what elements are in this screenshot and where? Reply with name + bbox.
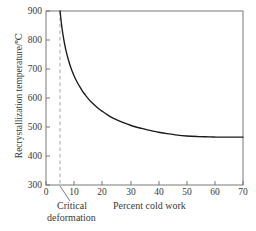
- x-tick-label-50: 50: [177, 188, 197, 198]
- recrystallization-temperature-chart: 900 800 700 600 500 400 300 0 10 20 30 4…: [0, 0, 256, 231]
- plot-frame: [46, 11, 243, 185]
- x-tick-label-60: 60: [205, 188, 225, 198]
- x-tick-label-20: 20: [92, 188, 112, 198]
- critical-deformation-annotation: Critical deformation: [57, 200, 96, 223]
- x-tick-label-10: 10: [64, 188, 84, 198]
- x-tick-label-40: 40: [149, 188, 169, 198]
- y-axis-title: Recrystallization temperature/℃: [13, 8, 24, 184]
- x-tick-label-0: 0: [36, 188, 56, 198]
- x-axis-title: Percent cold work: [113, 200, 186, 212]
- critical-deformation-line1: Critical: [57, 200, 87, 211]
- x-tick-label-70: 70: [233, 188, 253, 198]
- critical-deformation-line2: deformation: [47, 212, 96, 224]
- x-tick-label-30: 30: [121, 188, 141, 198]
